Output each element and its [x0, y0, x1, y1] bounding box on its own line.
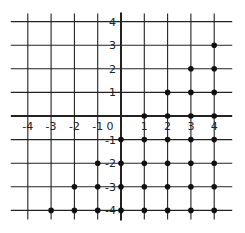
- data-point: [165, 208, 171, 214]
- data-point: [142, 184, 148, 190]
- data-point: [188, 66, 194, 72]
- data-point: [211, 90, 217, 96]
- data-point: [211, 208, 217, 214]
- x-tick-label: -3: [46, 120, 57, 133]
- x-tick-label: 4: [211, 120, 218, 133]
- data-point: [165, 137, 171, 143]
- y-tick-label: 3: [109, 39, 116, 52]
- origin-label: 0: [107, 120, 114, 133]
- data-point: [118, 208, 124, 214]
- x-tick-label: 3: [187, 120, 194, 133]
- data-point: [211, 160, 217, 166]
- data-point: [95, 184, 101, 190]
- data-point: [118, 184, 124, 190]
- coordinate-grid: -4-3-2-1123404321-1-2-3-4: [0, 0, 245, 233]
- data-point: [95, 208, 101, 214]
- data-point: [142, 113, 148, 119]
- data-point: [188, 90, 194, 96]
- y-tick-label: -3: [105, 181, 116, 194]
- data-point: [211, 42, 217, 48]
- data-point: [188, 113, 194, 119]
- x-tick-label: -2: [69, 120, 80, 133]
- data-point: [188, 184, 194, 190]
- data-point: [211, 113, 217, 119]
- data-point: [142, 137, 148, 143]
- data-point: [211, 66, 217, 72]
- data-point: [142, 208, 148, 214]
- data-point: [118, 137, 124, 143]
- data-point: [211, 184, 217, 190]
- data-point: [165, 90, 171, 96]
- x-tick-label: -1: [92, 120, 103, 133]
- y-tick-label: -4: [105, 204, 116, 217]
- y-tick-label: -2: [105, 157, 116, 170]
- data-point: [72, 208, 78, 214]
- data-point: [142, 160, 148, 166]
- data-point: [118, 160, 124, 166]
- x-tick-label: 2: [164, 120, 171, 133]
- data-point: [165, 184, 171, 190]
- data-point: [188, 208, 194, 214]
- data-point: [188, 137, 194, 143]
- y-tick-label: 4: [109, 16, 116, 29]
- x-tick-label: -4: [22, 120, 33, 133]
- data-point: [165, 160, 171, 166]
- data-point: [165, 113, 171, 119]
- data-point: [188, 160, 194, 166]
- y-tick-label: 2: [109, 63, 116, 76]
- y-tick-label: -1: [105, 134, 116, 147]
- data-point: [48, 208, 54, 214]
- data-point: [95, 160, 101, 166]
- data-point: [72, 184, 78, 190]
- y-tick-label: 1: [109, 86, 116, 99]
- data-point: [211, 137, 217, 143]
- x-tick-label: 1: [141, 120, 148, 133]
